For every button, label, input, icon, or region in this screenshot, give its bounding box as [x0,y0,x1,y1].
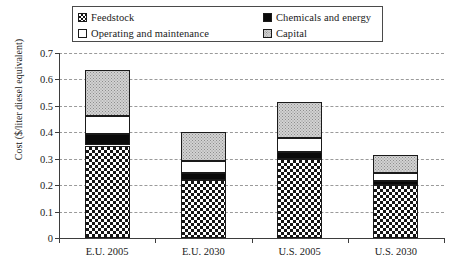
bar-stack[interactable] [277,53,322,238]
bar-segment[interactable] [181,173,226,180]
x-tick-label: E.U. 2030 [182,246,225,257]
bar-segment[interactable] [181,180,226,238]
x-tick-mark [444,238,445,243]
y-tick-label: 0.6 [40,74,53,85]
plot-area: 00.10.20.30.40.50.60.7E.U. 2005E.U. 2030… [59,53,444,238]
y-tick-label: 0 [48,233,53,244]
bar-stack[interactable] [373,53,418,238]
y-tick-label: 0.7 [40,48,53,59]
bar-segment[interactable] [85,70,130,116]
bar-segment[interactable] [277,102,322,138]
bar-segment[interactable] [277,152,322,159]
bar-segment[interactable] [85,134,130,146]
y-axis-title: Cost ($/liter diesel equivalent) [13,15,24,185]
y-tick-label: 0.3 [40,153,53,164]
bar-segment[interactable] [373,185,418,238]
bar-segment[interactable] [181,161,226,173]
bar-segment[interactable] [277,138,322,153]
x-axis-line [59,238,444,239]
y-axis-line [59,53,60,239]
bar-segment[interactable] [373,181,418,185]
bar-segment[interactable] [373,155,418,174]
x-tick-label: U.S. 2005 [278,246,320,257]
y-tick-label: 0.4 [40,127,53,138]
bar-segment[interactable] [373,173,418,181]
x-tick-label: U.S. 2030 [375,246,417,257]
bar-stack[interactable] [85,53,130,238]
y-tick-label: 0.1 [40,206,53,217]
x-tick-label: E.U. 2005 [86,246,129,257]
bar-segment[interactable] [181,132,226,161]
stacked-bar-chart: Cost ($/liter diesel equivalent) 00.10.2… [0,0,451,268]
bar-segment[interactable] [85,146,130,239]
y-tick-label: 0.2 [40,180,53,191]
y-tick-label: 0.5 [40,100,53,111]
bar-stack[interactable] [181,53,226,238]
bar-segment[interactable] [277,159,322,238]
bar-segment[interactable] [85,116,130,133]
